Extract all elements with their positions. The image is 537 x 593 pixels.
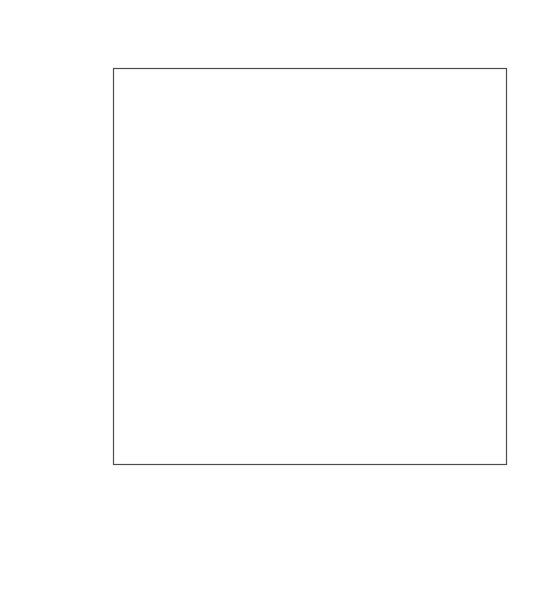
plot-frame (114, 69, 507, 465)
chart-container (0, 0, 537, 593)
normal-probability-plot (0, 0, 537, 593)
